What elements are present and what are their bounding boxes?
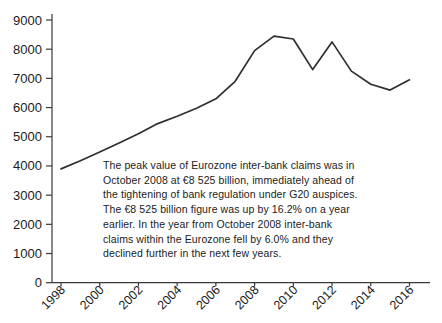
y-tick-label: 4000 — [13, 158, 42, 173]
y-tick-label: 3000 — [13, 188, 42, 203]
y-tick-label: 9000 — [13, 13, 42, 28]
y-tick-label: 0 — [35, 275, 42, 290]
x-tick-label: 2014 — [348, 283, 378, 313]
chart-annotation: The peak value of Eurozone inter-bank cl… — [103, 158, 361, 261]
x-tick-label: 2000 — [77, 283, 107, 313]
data-line — [61, 36, 410, 169]
y-tick-label: 8000 — [13, 42, 42, 57]
x-tick-label: 1998 — [39, 283, 69, 313]
y-tick-label: 1000 — [13, 246, 42, 261]
x-tick-label: 2004 — [155, 283, 185, 313]
x-tick-label: 2012 — [310, 283, 340, 313]
x-tick-label: 2008 — [232, 283, 262, 313]
y-tick-label: 7000 — [13, 71, 42, 86]
y-tick-label: 5000 — [13, 129, 42, 144]
x-tick-label: 2010 — [271, 283, 301, 313]
line-chart-figure: 0100020003000400050006000700080009000199… — [0, 0, 442, 323]
x-tick-label: 2006 — [193, 283, 223, 313]
y-tick-label: 6000 — [13, 100, 42, 115]
x-tick-label: 2016 — [387, 283, 417, 313]
x-tick-label: 2002 — [116, 283, 146, 313]
y-tick-label: 2000 — [13, 217, 42, 232]
